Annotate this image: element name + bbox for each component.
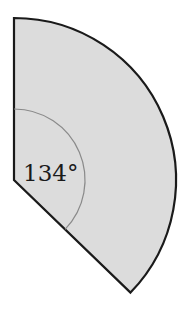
angle-label: 134° [23, 160, 78, 186]
sector-shape [14, 18, 176, 293]
sector-diagram: 134° [0, 0, 187, 315]
